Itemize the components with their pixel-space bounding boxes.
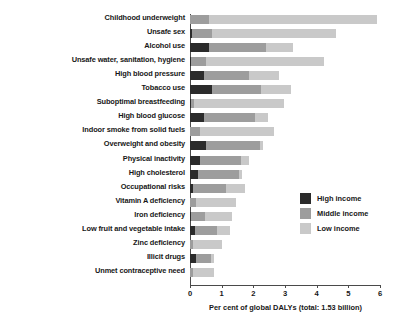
x-tick-label: 6 bbox=[378, 289, 382, 298]
bar-segment-low bbox=[193, 268, 214, 277]
stacked-bar bbox=[190, 85, 291, 94]
bar-segment-middle bbox=[191, 212, 205, 221]
legend-swatch-high bbox=[300, 193, 311, 204]
bar-segment-low bbox=[226, 184, 245, 193]
chart-row: Illicit drugs bbox=[190, 254, 380, 263]
bar-segment-low bbox=[205, 212, 232, 221]
category-label: Childhood underweight bbox=[105, 13, 185, 23]
x-tick bbox=[380, 285, 381, 288]
bar-segment-high bbox=[190, 113, 204, 122]
category-label: Occupational risks bbox=[121, 182, 185, 192]
bar-segment-high bbox=[190, 141, 206, 150]
legend-swatch-low bbox=[300, 223, 311, 234]
category-label: Low fruit and vegetable intake bbox=[82, 224, 185, 234]
x-tick bbox=[222, 285, 223, 288]
x-tick-label: 5 bbox=[346, 289, 350, 298]
stacked-bar bbox=[190, 57, 324, 66]
category-label: Vitamin A deficiency bbox=[115, 196, 185, 206]
chart-row: Physical inactivity bbox=[190, 156, 380, 165]
bar-segment-middle bbox=[195, 226, 217, 235]
bar-segment-low bbox=[200, 127, 274, 136]
bar-segment-high bbox=[190, 170, 198, 179]
bar-segment-middle bbox=[196, 254, 210, 263]
stacked-bar bbox=[190, 127, 274, 136]
x-tick bbox=[285, 285, 286, 288]
stacked-bar bbox=[190, 170, 242, 179]
stacked-bar bbox=[190, 113, 268, 122]
bar-segment-low bbox=[239, 170, 242, 179]
stacked-bar bbox=[190, 71, 279, 80]
chart-row: Alcohol use bbox=[190, 43, 380, 52]
category-label: Iron deficiency bbox=[134, 210, 185, 220]
stacked-bar bbox=[190, 43, 293, 52]
x-tick bbox=[348, 285, 349, 288]
category-label: Physical inactivity bbox=[123, 154, 185, 164]
category-label: Unmet contraceptive need bbox=[95, 266, 185, 276]
x-tick-label: 1 bbox=[220, 289, 224, 298]
chart-row: Childhood underweight bbox=[190, 15, 380, 24]
chart-row: Unmet contraceptive need bbox=[190, 268, 380, 277]
bar-segment-low bbox=[211, 254, 214, 263]
stacked-bar bbox=[190, 268, 214, 277]
bar-segment-low bbox=[260, 141, 263, 150]
bar-segment-high bbox=[190, 71, 204, 80]
chart-row: Suboptimal breastfeeding bbox=[190, 99, 380, 108]
bar-segment-middle bbox=[191, 57, 207, 66]
bar-segment-low bbox=[194, 99, 284, 108]
bar-segment-middle bbox=[212, 85, 261, 94]
bar-segment-low bbox=[255, 113, 268, 122]
stacked-bar bbox=[190, 184, 245, 193]
chart-row: High blood pressure bbox=[190, 71, 380, 80]
bar-segment-middle bbox=[209, 43, 266, 52]
bar-segment-middle bbox=[204, 71, 248, 80]
legend-label: High income bbox=[317, 194, 361, 203]
x-tick bbox=[190, 285, 191, 288]
bar-segment-low bbox=[212, 29, 336, 38]
x-tick-label: 0 bbox=[188, 289, 192, 298]
chart-legend: High incomeMiddle incomeLow income bbox=[300, 191, 368, 236]
bar-segment-low bbox=[249, 71, 279, 80]
bar-segment-middle bbox=[200, 156, 241, 165]
category-label: Zinc deficiency bbox=[133, 238, 185, 248]
legend-swatch-middle bbox=[300, 208, 311, 219]
chart-row: Tobacco use bbox=[190, 85, 380, 94]
bar-segment-high bbox=[190, 43, 209, 52]
stacked-bar bbox=[190, 29, 336, 38]
legend-item: High income bbox=[300, 191, 368, 206]
category-label: Alcohol use bbox=[144, 41, 185, 51]
chart-row: High blood glucose bbox=[190, 113, 380, 122]
bar-segment-middle bbox=[192, 29, 213, 38]
x-tick-label: 2 bbox=[251, 289, 255, 298]
bar-segment-low bbox=[206, 57, 323, 66]
bar-segment-middle bbox=[190, 127, 200, 136]
legend-item: Low income bbox=[300, 221, 368, 236]
x-tick-label: 4 bbox=[315, 289, 319, 298]
x-tick bbox=[317, 285, 318, 288]
category-label: Indoor smoke from solid fuels bbox=[82, 125, 185, 135]
bar-segment-high bbox=[190, 156, 200, 165]
bar-segment-low bbox=[196, 198, 236, 207]
bar-segment-low bbox=[193, 240, 222, 249]
bar-segment-middle bbox=[204, 113, 255, 122]
stacked-bar bbox=[190, 15, 377, 24]
chart-row: Unsafe sex bbox=[190, 29, 380, 38]
bar-segment-high bbox=[190, 85, 212, 94]
bar-segment-low bbox=[266, 43, 293, 52]
category-label: High blood pressure bbox=[115, 69, 185, 79]
legend-label: Middle income bbox=[317, 209, 368, 218]
bar-segment-middle bbox=[198, 170, 239, 179]
bar-segment-middle bbox=[190, 15, 209, 24]
bar-segment-middle bbox=[193, 184, 226, 193]
category-label: Unsafe water, sanitation, hygiene bbox=[72, 55, 185, 65]
chart-row: High cholesterol bbox=[190, 170, 380, 179]
stacked-bar bbox=[190, 240, 222, 249]
chart-row: Unsafe water, sanitation, hygiene bbox=[190, 57, 380, 66]
bar-segment-low bbox=[261, 85, 291, 94]
bar-segment-low bbox=[209, 15, 377, 24]
category-label: Unsafe sex bbox=[147, 27, 185, 37]
plot-area: Childhood underweightUnsafe sexAlcohol u… bbox=[190, 14, 380, 281]
chart-row: Zinc deficiency bbox=[190, 240, 380, 249]
stacked-bar bbox=[190, 156, 249, 165]
stacked-bar bbox=[190, 141, 263, 150]
category-label: Overweight and obesity bbox=[104, 139, 185, 149]
